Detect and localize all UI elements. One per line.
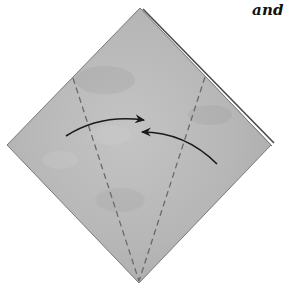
origami-diagram: [0, 0, 286, 290]
paper-diamond: [7, 8, 271, 283]
